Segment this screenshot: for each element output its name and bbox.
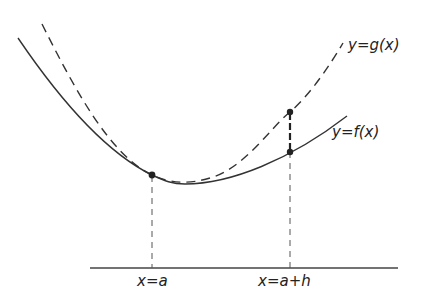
label-x-a-plus-h: x=a+h xyxy=(257,272,311,290)
point-g-at-a-plus-h xyxy=(287,109,293,115)
label-f: y=f(x) xyxy=(331,123,379,141)
touch-point xyxy=(149,172,156,179)
diagram-canvas: y=g(x) y=f(x) x=a x=a+h xyxy=(0,0,425,303)
curve-g xyxy=(42,24,343,182)
label-x-a: x=a xyxy=(136,272,168,290)
curve-f xyxy=(18,38,347,184)
point-f-at-a-plus-h xyxy=(287,149,293,155)
label-g: y=g(x) xyxy=(347,36,400,54)
